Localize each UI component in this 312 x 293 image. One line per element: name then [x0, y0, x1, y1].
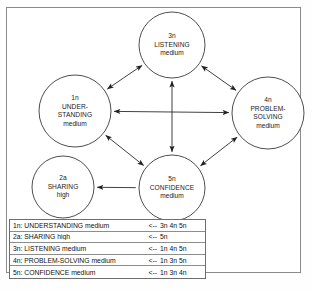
edge-understanding-confidence — [106, 135, 144, 165]
legend-row-label: 4n: PROBLEM-SOLVING medium — [13, 257, 149, 264]
legend-row-arrow: <-- — [149, 269, 161, 276]
legend-row-label: 1n: UNDERSTANDING medium — [13, 222, 149, 229]
node-circle-listening[interactable] — [139, 12, 205, 78]
legend-row-sources: 1n 3n 4n — [160, 269, 202, 276]
legend-row-label: 5n: CONFIDENCE medium — [13, 269, 149, 276]
legend-row-label: 3n: LISTENING medium — [13, 245, 149, 252]
node-circle-problem-solving[interactable] — [232, 77, 304, 149]
legend-row-sources: 5n — [160, 233, 202, 240]
legend-row-sources: 1n 4n 5n — [160, 245, 202, 252]
edge-understanding-problem-solving — [114, 111, 229, 112]
legend-row-sources: 1n 3n 5n — [160, 257, 202, 264]
legend-row-arrow: <-- — [149, 257, 161, 264]
legend-row: 5n: CONFIDENCE medium<--1n 3n 4n — [10, 266, 205, 278]
legend-row: 4n: PROBLEM-SOLVING medium<--1n 3n 5n — [10, 255, 205, 267]
legend-row-label: 2a: SHARING high — [13, 233, 149, 240]
legend-row-arrow: <-- — [149, 222, 161, 229]
legend-row: 1n: UNDERSTANDING medium<--3n 4n 5n — [10, 220, 205, 232]
node-layer — [32, 12, 304, 221]
node-circle-understanding[interactable] — [39, 75, 111, 147]
node-circle-sharing[interactable] — [32, 156, 94, 218]
legend-row: 2a: SHARING high<--5n — [10, 232, 205, 244]
legend-row-arrow: <-- — [149, 233, 161, 240]
diagram-root: 1nUNDER-STANDINGmedium2aSHARINGhigh3nLIS… — [0, 0, 312, 293]
edge-listening-problem-solving — [202, 66, 236, 90]
edge-confidence-problem-solving — [201, 137, 238, 166]
node-circle-confidence[interactable] — [139, 155, 205, 221]
legend-row-arrow: <-- — [149, 245, 161, 252]
edge-understanding-listening — [107, 65, 142, 89]
legend-row-sources: 3n 4n 5n — [160, 222, 202, 229]
legend-table: 1n: UNDERSTANDING medium<--3n 4n 5n2a: S… — [9, 219, 206, 279]
legend-row: 3n: LISTENING medium<--1n 4n 5n — [10, 243, 205, 255]
